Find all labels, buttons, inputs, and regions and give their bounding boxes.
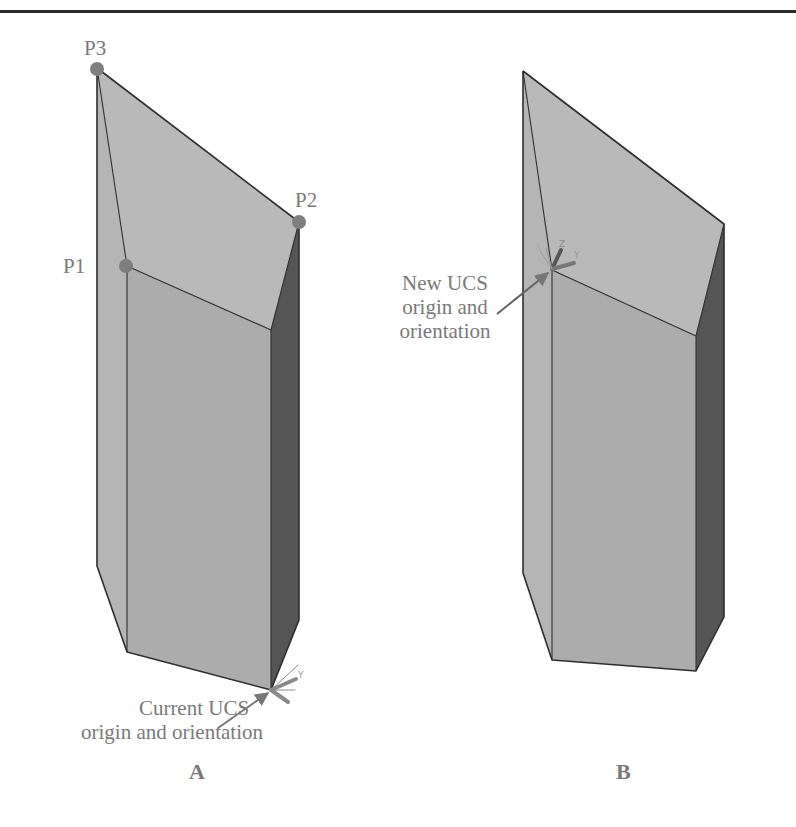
solid-a: Y [90, 62, 306, 728]
callout-current-ucs: Current UCS origin and orientation [52, 696, 292, 744]
callout-new-ucs-line1: New UCS [385, 271, 505, 295]
callout-new-ucs: New UCS origin and orientation [385, 271, 505, 343]
solid-a-front-face [127, 266, 271, 690]
figure-b-caption: B [616, 759, 631, 785]
callout-current-ucs-line2: origin and orientation [52, 720, 292, 744]
callout-new-ucs-line2: origin and [385, 295, 505, 319]
svg-text:Y: Y [573, 250, 580, 260]
point-p3-label: P3 [84, 36, 106, 60]
svg-text:X: X [535, 243, 541, 252]
solid-b-front-face [552, 270, 696, 671]
callout-new-ucs-line3: orientation [385, 319, 505, 343]
svg-text:Z: Z [559, 239, 565, 249]
point-p1-label: P1 [63, 254, 85, 278]
point-p1-marker [119, 259, 133, 273]
point-p2-marker [292, 215, 306, 229]
point-p2-label: P2 [295, 188, 317, 212]
point-p3-marker [90, 62, 104, 76]
svg-text:Y: Y [297, 670, 304, 680]
figure-a-caption: A [189, 759, 205, 785]
callout-current-ucs-line1: Current UCS [52, 696, 292, 720]
solid-b: Z Y X [497, 71, 724, 671]
